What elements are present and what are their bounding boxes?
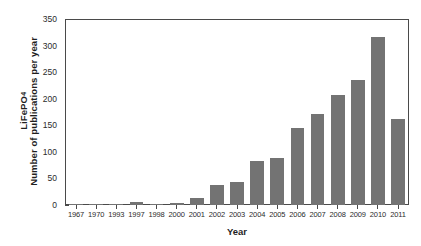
x-tick-slot — [106, 205, 126, 209]
y-axis-tick-label: 300 — [43, 41, 57, 51]
x-tick-slot — [66, 205, 86, 209]
x-axis-tick-mark — [176, 205, 177, 209]
bar[interactable] — [190, 198, 204, 205]
x-axis-tick-mark — [216, 205, 217, 209]
x-axis-tick-label: 1967 — [66, 210, 86, 222]
x-axis-tick-label: 1997 — [126, 210, 146, 222]
x-tick-slot — [126, 205, 146, 209]
x-tick-slot — [328, 205, 348, 209]
y-axis-tick-label: 0 — [52, 200, 57, 210]
x-axis-ticks — [66, 205, 408, 209]
y-axis-tick-label: 250 — [43, 67, 57, 77]
bar-slot — [368, 20, 388, 205]
x-tick-slot — [388, 205, 408, 209]
bar-slot — [66, 20, 86, 205]
y-axis-tick-label: 200 — [43, 94, 57, 104]
bar-slot — [308, 20, 328, 205]
x-axis-tick-mark — [116, 205, 117, 209]
x-axis-tick-label: 2011 — [388, 210, 408, 222]
bar-slot — [388, 20, 408, 205]
bar[interactable] — [291, 128, 305, 205]
x-tick-slot — [368, 205, 388, 209]
x-axis-tick-label: 2009 — [348, 210, 368, 222]
y-axis: 050100150200250300350 — [0, 0, 65, 246]
x-axis-tick-label: 2008 — [328, 210, 348, 222]
bar-slot — [86, 20, 106, 205]
x-tick-slot — [348, 205, 368, 209]
x-axis-tick-mark — [237, 205, 238, 209]
x-axis-tick-mark — [357, 205, 358, 209]
x-axis-tick-label: 1998 — [147, 210, 167, 222]
bar[interactable] — [250, 161, 264, 205]
x-axis-tick-mark — [317, 205, 318, 209]
bar-slot — [126, 20, 146, 205]
x-axis-tick-mark — [377, 205, 378, 209]
y-axis-tick-label: 150 — [43, 120, 57, 130]
x-tick-slot — [147, 205, 167, 209]
bar-slot — [227, 20, 247, 205]
x-axis-tick-mark — [257, 205, 258, 209]
x-axis-tick-label: 1970 — [86, 210, 106, 222]
bar-slot — [187, 20, 207, 205]
x-axis-tick-label: 2007 — [308, 210, 328, 222]
x-axis-tick-label: 2001 — [187, 210, 207, 222]
bar[interactable] — [331, 95, 345, 205]
x-axis-tick-label: 2004 — [247, 210, 267, 222]
x-tick-slot — [247, 205, 267, 209]
x-tick-slot — [167, 205, 187, 209]
bar[interactable] — [391, 119, 405, 205]
x-axis-tick-mark — [96, 205, 97, 209]
x-tick-slot — [287, 205, 307, 209]
bar[interactable] — [311, 114, 325, 205]
bar-slot — [147, 20, 167, 205]
x-axis-tick-mark — [297, 205, 298, 209]
x-axis-tick-labels: 1967197019931997199820002001200220032004… — [66, 210, 408, 222]
x-axis-tick-mark — [398, 205, 399, 209]
x-tick-slot — [267, 205, 287, 209]
x-axis-tick-mark — [136, 205, 137, 209]
x-axis-tick-label: 2002 — [207, 210, 227, 222]
x-axis-title: Year — [65, 226, 409, 237]
bar[interactable] — [210, 185, 224, 205]
x-tick-slot — [86, 205, 106, 209]
bar[interactable] — [230, 182, 244, 205]
x-axis-tick-label: 1993 — [106, 210, 126, 222]
x-tick-slot — [227, 205, 247, 209]
x-axis-tick-mark — [337, 205, 338, 209]
x-axis-tick-label: 2010 — [368, 210, 388, 222]
x-axis-tick-label: 2005 — [267, 210, 287, 222]
bar-slot — [287, 20, 307, 205]
bar[interactable] — [371, 37, 385, 205]
y-axis-tick-label: 50 — [48, 173, 57, 183]
x-axis-tick-mark — [196, 205, 197, 209]
bar-slot — [106, 20, 126, 205]
y-axis-tick-label: 100 — [43, 147, 57, 157]
x-tick-slot — [207, 205, 227, 209]
x-tick-slot — [308, 205, 328, 209]
x-axis-tick-label: 2000 — [167, 210, 187, 222]
x-tick-slot — [187, 205, 207, 209]
bar-slot — [348, 20, 368, 205]
x-axis-tick-mark — [156, 205, 157, 209]
bar-slot — [267, 20, 287, 205]
bar-series — [66, 20, 408, 205]
bar-slot — [328, 20, 348, 205]
bar-slot — [207, 20, 227, 205]
chart-figure: LiFePO4 Number of publications per year … — [0, 0, 421, 246]
x-axis-tick-label: 2003 — [227, 210, 247, 222]
bar-slot — [167, 20, 187, 205]
bar[interactable] — [351, 80, 365, 205]
x-axis-tick-mark — [277, 205, 278, 209]
x-axis-tick-mark — [76, 205, 77, 209]
bar-slot — [247, 20, 267, 205]
x-axis-tick-label: 2006 — [287, 210, 307, 222]
bar[interactable] — [270, 158, 284, 205]
y-axis-tick-label: 350 — [43, 14, 57, 24]
